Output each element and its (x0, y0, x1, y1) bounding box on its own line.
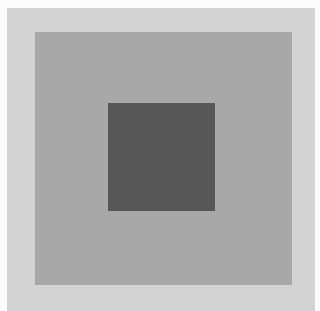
inner-square (108, 103, 215, 211)
